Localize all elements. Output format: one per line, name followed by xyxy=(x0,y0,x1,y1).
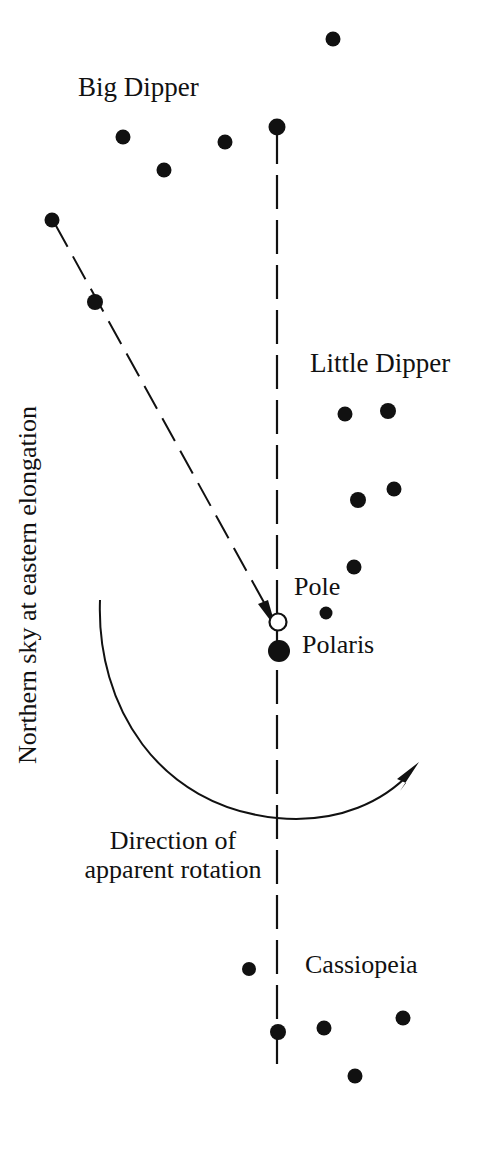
pole-marker-icon xyxy=(270,614,287,631)
star-cassiopeia xyxy=(270,1024,286,1040)
star-little-dipper xyxy=(347,560,362,575)
star-polaris xyxy=(268,640,290,662)
label-northern-sky: Northern sky at eastern elongation xyxy=(13,406,42,764)
star-big-dipper xyxy=(326,32,341,47)
label-rotation-direction: Direction of apparent rotation xyxy=(63,826,283,884)
label-rotation-line2: apparent rotation xyxy=(63,855,283,884)
star-cassiopeia xyxy=(317,1021,332,1036)
star-big-dipper-pointer xyxy=(87,294,103,310)
label-pole: Pole xyxy=(294,572,340,601)
label-polaris: Polaris xyxy=(302,630,374,659)
star-big-dipper xyxy=(116,130,131,145)
star-little-dipper xyxy=(350,492,366,508)
star-little-dipper xyxy=(338,407,353,422)
star-big-dipper xyxy=(269,119,286,136)
star-big-dipper xyxy=(157,163,172,178)
sky-diagram-canvas xyxy=(0,0,498,1165)
star-cassiopeia xyxy=(242,962,256,976)
star-cassiopeia xyxy=(348,1069,363,1084)
label-rotation-line1: Direction of xyxy=(63,826,283,855)
star-cassiopeia xyxy=(396,1011,411,1026)
label-little-dipper: Little Dipper xyxy=(310,348,450,378)
pointer-line xyxy=(55,224,272,617)
star-big-dipper-pointer xyxy=(45,213,60,228)
star-little-dipper xyxy=(387,482,402,497)
rotation-arrowhead xyxy=(397,762,419,791)
label-big-dipper: Big Dipper xyxy=(78,72,199,102)
star-little-dipper xyxy=(320,607,333,620)
sky-diagram: Big Dipper Little Dipper Pole Polaris Ca… xyxy=(0,0,498,1165)
label-cassiopeia: Cassiopeia xyxy=(305,950,418,979)
star-little-dipper xyxy=(380,403,396,419)
star-big-dipper xyxy=(218,135,233,150)
